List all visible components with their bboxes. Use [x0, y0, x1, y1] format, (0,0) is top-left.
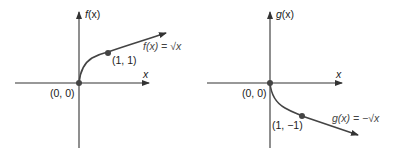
graph-f: f(x) x (0, 0) (1, 1) f(x) = √x	[15, 8, 182, 148]
function-label: g(x) = −√x	[332, 112, 380, 124]
x-axis-label: x	[335, 68, 342, 80]
origin-label: (0, 0)	[50, 87, 75, 99]
origin-point	[267, 80, 273, 86]
origin-point	[76, 80, 82, 86]
function-label: f(x) = √x	[143, 40, 182, 52]
point-label: (1, 1)	[112, 54, 137, 66]
point-1-1	[105, 50, 111, 56]
origin-label: (0, 0)	[242, 87, 267, 99]
graphs: f(x) x (0, 0) (1, 1) f(x) = √x g(x) x (0…	[0, 0, 397, 156]
y-axis-label: g(x)	[276, 8, 294, 20]
x-axis-label: x	[142, 68, 149, 80]
y-axis-label: f(x)	[85, 8, 100, 20]
point-label: (1, −1)	[272, 119, 303, 131]
graph-g: g(x) x (0, 0) (1, −1) g(x) = −√x	[207, 8, 380, 148]
